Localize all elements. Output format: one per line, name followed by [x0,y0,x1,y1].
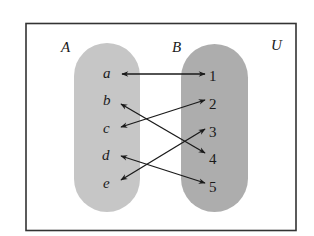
element-2: 2 [209,96,217,112]
element-3: 3 [209,124,217,140]
universe-label: U [271,37,283,53]
mapping-diagram: A B U a b c d e 1 2 3 4 5 [0,0,314,236]
element-c: c [103,120,110,136]
element-b: b [103,92,111,108]
set-a-label: A [60,39,71,55]
element-d: d [102,147,110,163]
element-a: a [103,65,111,81]
element-4: 4 [209,151,217,167]
element-5: 5 [209,179,217,195]
element-1: 1 [209,68,217,84]
set-b-label: B [172,39,181,55]
element-e: e [103,175,110,191]
